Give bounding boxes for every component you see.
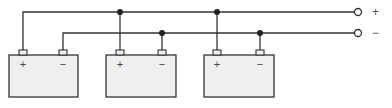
battery-2-positive-label: + xyxy=(117,58,123,70)
battery-3-negative-label: − xyxy=(257,58,263,70)
battery-1-negative-post xyxy=(59,50,67,55)
junction-dot xyxy=(117,9,123,15)
battery-1: + − xyxy=(9,50,78,97)
battery-1-positive-label: + xyxy=(20,58,26,70)
junction-dot xyxy=(214,9,220,15)
junction-dot xyxy=(257,30,263,36)
battery-3-negative-post xyxy=(256,50,264,55)
junction-dot xyxy=(159,30,165,36)
battery-1-positive-post xyxy=(19,50,27,55)
battery-3-positive-post xyxy=(213,50,221,55)
negative-bus-wire xyxy=(63,33,355,50)
battery-2-negative-post xyxy=(158,50,166,55)
battery-2-positive-post xyxy=(116,50,124,55)
positive-output-terminal xyxy=(355,9,362,16)
battery-2-negative-label: − xyxy=(159,58,165,70)
battery-1-negative-label: − xyxy=(60,58,66,70)
battery-3-positive-label: + xyxy=(214,58,220,70)
battery-2: + − xyxy=(106,50,176,97)
positive-bus-wire xyxy=(23,12,355,50)
negative-output-label: − xyxy=(372,26,379,40)
positive-output-label: + xyxy=(372,5,379,19)
parallel-battery-diagram: + − + − + − + − xyxy=(0,0,392,108)
negative-output-terminal xyxy=(355,30,362,37)
battery-3: + − xyxy=(204,50,274,97)
